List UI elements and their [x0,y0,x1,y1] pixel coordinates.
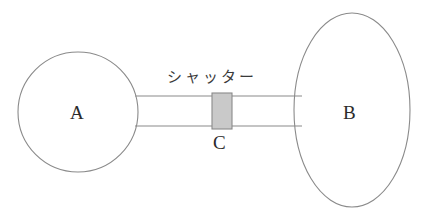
diagram-canvas [0,0,446,216]
vessel-b-label: B [343,103,356,122]
figure-container: A B C シャッター [0,0,446,216]
shutter-label: シャッター [167,70,257,85]
shutter-rect [212,93,232,129]
vessel-a-label: A [70,103,84,122]
tube-c-label: C [213,133,226,152]
